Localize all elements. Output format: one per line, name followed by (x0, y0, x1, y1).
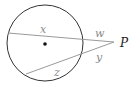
center-dot (43, 42, 47, 46)
label-point-p: P (119, 36, 129, 50)
label-y: y (95, 51, 103, 64)
label-z: z (53, 66, 60, 79)
label-x: x (40, 23, 47, 36)
secant-diagram: x w y z P (0, 0, 131, 86)
label-w: w (95, 27, 105, 40)
